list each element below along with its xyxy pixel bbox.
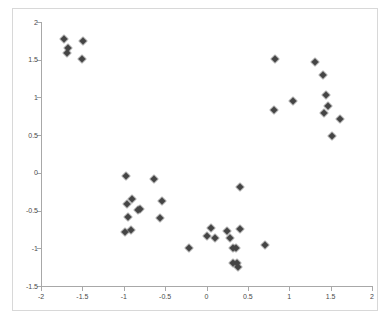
y-tick-label: 1.5: [28, 56, 38, 63]
data-point: [61, 35, 68, 42]
x-tick-mark: [82, 286, 83, 291]
data-point: [311, 58, 318, 65]
x-tick-label: -1.5: [76, 293, 88, 300]
x-tick-mark: [124, 286, 125, 291]
data-point: [63, 49, 70, 56]
data-point: [207, 224, 214, 231]
plot-area: [41, 22, 372, 286]
y-tick-label: -1: [32, 245, 38, 252]
y-tick-label: 1: [34, 94, 38, 101]
data-point: [320, 71, 327, 78]
x-tick-label: 2: [370, 293, 374, 300]
x-tick-label: -0.5: [159, 293, 171, 300]
y-tick-label: -0.5: [26, 207, 38, 214]
data-point: [322, 92, 329, 99]
x-tick-mark: [372, 286, 373, 291]
x-tick-mark: [248, 286, 249, 291]
y-tick-label: 0.5: [28, 132, 38, 139]
y-tick-label: -1.5: [26, 283, 38, 290]
data-point: [336, 115, 343, 122]
data-point: [320, 109, 327, 116]
x-tick-mark: [207, 286, 208, 291]
y-tick-label: 2: [34, 19, 38, 26]
x-tick-label: 0: [205, 293, 209, 300]
data-point: [158, 197, 165, 204]
x-tick-label: 0.5: [243, 293, 253, 300]
y-tick-label: 0: [34, 169, 38, 176]
data-point: [203, 233, 210, 240]
data-point: [78, 55, 85, 62]
chart-figure: 21.510.50-0.5-1-1.5 -2-1.5-1-0.500.511.5…: [0, 0, 390, 320]
x-tick-label: -1: [121, 293, 127, 300]
x-tick-label: -2: [38, 293, 44, 300]
data-point: [128, 195, 135, 202]
x-tick-mark: [165, 286, 166, 291]
x-tick-mark: [41, 286, 42, 291]
x-tick-label: 1: [287, 293, 291, 300]
data-point: [236, 225, 243, 232]
x-tick-mark: [331, 286, 332, 291]
x-tick-mark: [289, 286, 290, 291]
x-tick-label: 1.5: [326, 293, 336, 300]
